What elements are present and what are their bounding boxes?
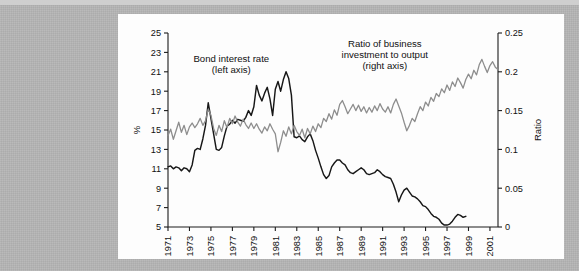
series-layer — [168, 59, 498, 225]
ytick-left-label: 25 — [151, 28, 161, 38]
xtick-label: 1985 — [314, 236, 324, 256]
ytick-left-label: 9 — [156, 184, 161, 194]
xtick-label: 1983 — [292, 236, 302, 256]
ytick-left-label: 15 — [151, 125, 161, 135]
ytick-left-label: 7 — [156, 203, 161, 213]
y-axis-title: % — [131, 125, 142, 134]
y2-axis-title: Ratio — [532, 119, 543, 141]
xtick-label: 1987 — [335, 236, 345, 256]
ratio-annotation-line: (right axis) — [362, 60, 407, 71]
ytick-left-label: 5 — [156, 222, 161, 232]
ytick-left-label: 19 — [151, 87, 161, 97]
xtick-label: 1975 — [206, 236, 216, 256]
ytick-left-label: 21 — [151, 67, 161, 77]
ytick-right-label: 0.2 — [505, 67, 518, 77]
xtick-label: 1977 — [228, 236, 238, 256]
xtick-label: 1989 — [357, 236, 367, 256]
xtick-label: 1999 — [464, 236, 474, 256]
xtick-label: 1997 — [442, 236, 452, 256]
xtick-label: 2001 — [485, 236, 495, 256]
xtick-label: 1995 — [421, 236, 431, 256]
xtick-label: 1981 — [271, 236, 281, 256]
ytick-right-label: 0 — [505, 222, 510, 232]
bond-annotation-line: Bond interest rate — [193, 53, 269, 64]
xtick-label: 1971 — [163, 236, 173, 256]
ytick-right-label: 0.05 — [505, 184, 523, 194]
chart-plot: 25232119171513119750.250.20.150.10.05019… — [118, 14, 564, 259]
ytick-left-label: 17 — [151, 106, 161, 116]
xtick-label: 1993 — [399, 236, 409, 256]
chart-panel: 25232119171513119750.250.20.150.10.05019… — [118, 14, 564, 259]
ytick-right-label: 0.15 — [505, 106, 523, 116]
figure-root: 25232119171513119750.250.20.150.10.05019… — [0, 0, 579, 271]
xtick-label: 1973 — [185, 236, 195, 256]
series-line-bond — [168, 72, 466, 225]
ytick-right-label: 0.1 — [505, 145, 518, 155]
labels-layer: %RatioBond interest rate(left axis)Ratio… — [131, 38, 543, 142]
xtick-label: 1991 — [378, 236, 388, 256]
xtick-label: 1979 — [249, 236, 259, 256]
ytick-left-label: 11 — [151, 164, 161, 174]
ratio-annotation-line: Ratio of business — [348, 38, 422, 49]
ratio-annotation-line: investment to output — [342, 49, 429, 60]
ytick-right-label: 0.25 — [505, 28, 523, 38]
ytick-left-label: 23 — [151, 48, 161, 58]
ytick-left-label: 13 — [151, 145, 161, 155]
bond-annotation-line: (left axis) — [212, 64, 251, 75]
